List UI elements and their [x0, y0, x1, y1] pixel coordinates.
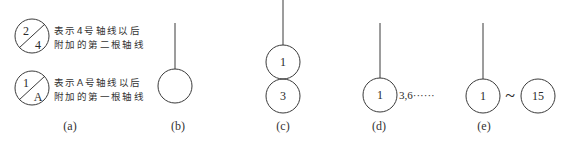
axis-symbol-list: 1 3,6······: [363, 23, 435, 112]
denominator: A: [34, 90, 43, 104]
note-line-1: 表示4号轴线以后: [54, 24, 145, 38]
numerator: 2: [23, 24, 29, 38]
note-2-4: 表示4号轴线以后 附加的第二根轴线: [54, 24, 145, 52]
figure-caption-clipped: [205, 141, 355, 145]
top-number: 1: [280, 55, 286, 69]
label-e: (e): [477, 119, 490, 134]
split-axis-symbol-1-A: 1 A: [15, 71, 49, 105]
axis-symbol-empty: [158, 23, 192, 103]
denominator: 4: [35, 38, 41, 52]
bottom-number: 3: [280, 89, 286, 103]
number: 1: [377, 88, 383, 102]
numerator: 1: [23, 76, 29, 90]
suffix-list: 3,6······: [399, 89, 435, 101]
end-number: 15: [532, 89, 544, 103]
label-b: (b): [171, 119, 185, 134]
tilde-connector: ~: [505, 86, 515, 106]
note-line-2: 附加的第二根轴线: [54, 38, 145, 52]
split-axis-symbol-2-4: 2 4: [15, 19, 49, 53]
label-a: (a): [63, 119, 76, 134]
axis-symbol-stacked: 1 3: [266, 0, 300, 113]
axis-symbol-range: 1 ~ 15: [466, 23, 555, 113]
start-number: 1: [480, 89, 486, 103]
note-line-1: 表示A号轴线以后: [54, 76, 145, 90]
note-1-A: 表示A号轴线以后 附加的第一根轴线: [54, 76, 145, 104]
label-d: (d): [372, 119, 386, 134]
note-line-2: 附加的第一根轴线: [54, 90, 145, 104]
label-c: (c): [276, 119, 289, 134]
